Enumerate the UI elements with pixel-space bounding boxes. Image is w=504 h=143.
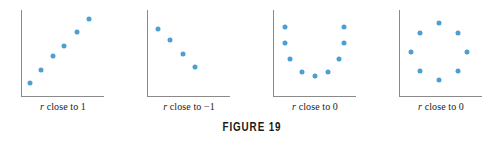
data-point	[313, 74, 318, 79]
x-axis-line-3	[273, 96, 356, 97]
data-point	[75, 29, 80, 34]
x-axis-line-1	[21, 96, 104, 97]
plot-area-3	[273, 10, 356, 97]
panel-label-text-2: close to −1	[167, 101, 215, 112]
panel-label-text-4: close to 0	[422, 101, 464, 112]
data-point	[300, 69, 305, 74]
scatterplot-panels-row: r close to 1 r close to −1 r close to 0	[0, 0, 504, 118]
x-axis-line-4	[399, 96, 482, 97]
plot-area-2	[147, 10, 230, 97]
data-point	[283, 25, 288, 30]
data-point	[28, 81, 33, 86]
y-axis-line-4	[399, 10, 400, 97]
data-point	[341, 41, 346, 46]
panel-label-text-1: close to 1	[44, 101, 86, 112]
y-axis-line-2	[147, 10, 148, 97]
data-point	[193, 64, 198, 69]
panel-label-2: r close to −1	[126, 101, 252, 112]
figure-container: r close to 1 r close to −1 r close to 0	[0, 0, 504, 143]
data-point	[50, 54, 55, 59]
panel-label-1: r close to 1	[0, 101, 126, 112]
scatterplot-panel-3: r close to 0	[252, 0, 378, 118]
plot-area-4	[399, 10, 482, 97]
scatterplot-panel-1: r close to 1	[0, 0, 126, 118]
data-point	[325, 69, 330, 74]
data-point	[417, 30, 422, 35]
data-point	[455, 68, 460, 73]
data-point	[283, 41, 288, 46]
panel-label-3: r close to 0	[252, 101, 378, 112]
data-point	[288, 56, 293, 61]
data-point	[87, 16, 92, 21]
data-point	[168, 38, 173, 43]
data-point	[38, 68, 43, 73]
data-point	[408, 49, 413, 54]
data-point	[455, 30, 460, 35]
data-point	[465, 49, 470, 54]
figure-caption: FIGURE 19	[45, 120, 458, 134]
data-point	[62, 43, 67, 48]
data-point	[436, 21, 441, 26]
plot-area-1	[21, 10, 104, 97]
data-point	[155, 27, 160, 32]
data-point	[436, 78, 441, 83]
panel-label-text-3: close to 0	[296, 101, 338, 112]
data-point	[417, 68, 422, 73]
data-point	[180, 51, 185, 56]
data-point	[341, 25, 346, 30]
scatterplot-panel-2: r close to −1	[126, 0, 252, 118]
scatterplot-panel-4: r close to 0	[378, 0, 504, 118]
y-axis-line-1	[21, 10, 22, 97]
data-point	[336, 56, 341, 61]
y-axis-line-3	[273, 10, 274, 97]
x-axis-line-2	[147, 96, 230, 97]
panel-label-4: r close to 0	[378, 101, 504, 112]
